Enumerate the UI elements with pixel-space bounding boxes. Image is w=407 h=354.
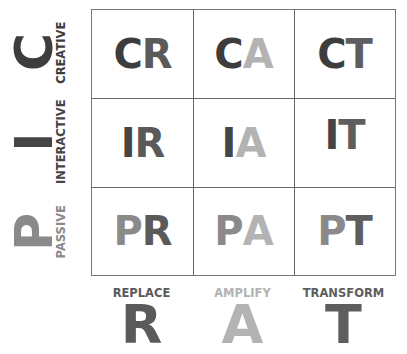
cell-row-letter: P [113, 211, 141, 251]
row-letter-creative: C [8, 22, 60, 82]
cell-row-letter: P [317, 211, 345, 251]
cell-col-letter: T [338, 115, 364, 155]
row-label-passive: PASSIVE [56, 196, 68, 268]
cell-row-letter: I [121, 123, 135, 163]
cell-row-letter: P [214, 211, 242, 251]
col-letter-transform: T [293, 298, 394, 352]
cell-row-letter: I [324, 115, 338, 155]
cell-col-letter: T [346, 34, 372, 74]
row-label-creative: CREATIVE [56, 13, 68, 93]
col-letter-amplify: A [192, 298, 293, 352]
cell-ct: CT [294, 10, 395, 98]
cell-col-letter: R [142, 34, 172, 74]
row-letter-interactive: I [8, 112, 60, 172]
cell-ia: IA [193, 98, 294, 187]
cell-pr: PR [92, 187, 193, 275]
col-letter-replace: R [91, 298, 192, 352]
cell-col-letter: A [243, 211, 273, 251]
cell-ir: IR [92, 98, 193, 187]
cell-col-letter: R [135, 123, 165, 163]
cell-col-letter: R [142, 211, 172, 251]
cell-ca: CA [193, 10, 294, 98]
cell-col-letter: T [346, 211, 372, 251]
cell-pt: PT [294, 187, 395, 275]
cell-row-letter: C [113, 34, 141, 74]
cell-it: IT [294, 90, 395, 179]
pic-rat-matrix: CR CA CT IR IA IT PR PA PT [91, 9, 396, 276]
cell-row-letter: I [222, 123, 236, 163]
cell-pa: PA [193, 187, 294, 275]
cell-col-letter: A [243, 34, 273, 74]
cell-row-letter: C [214, 34, 242, 74]
row-label-interactive: INTERACTIVE [56, 86, 68, 198]
cell-col-letter: A [235, 123, 265, 163]
row-letter-passive: P [8, 202, 60, 262]
cell-row-letter: C [317, 34, 345, 74]
cell-cr: CR [92, 10, 193, 98]
